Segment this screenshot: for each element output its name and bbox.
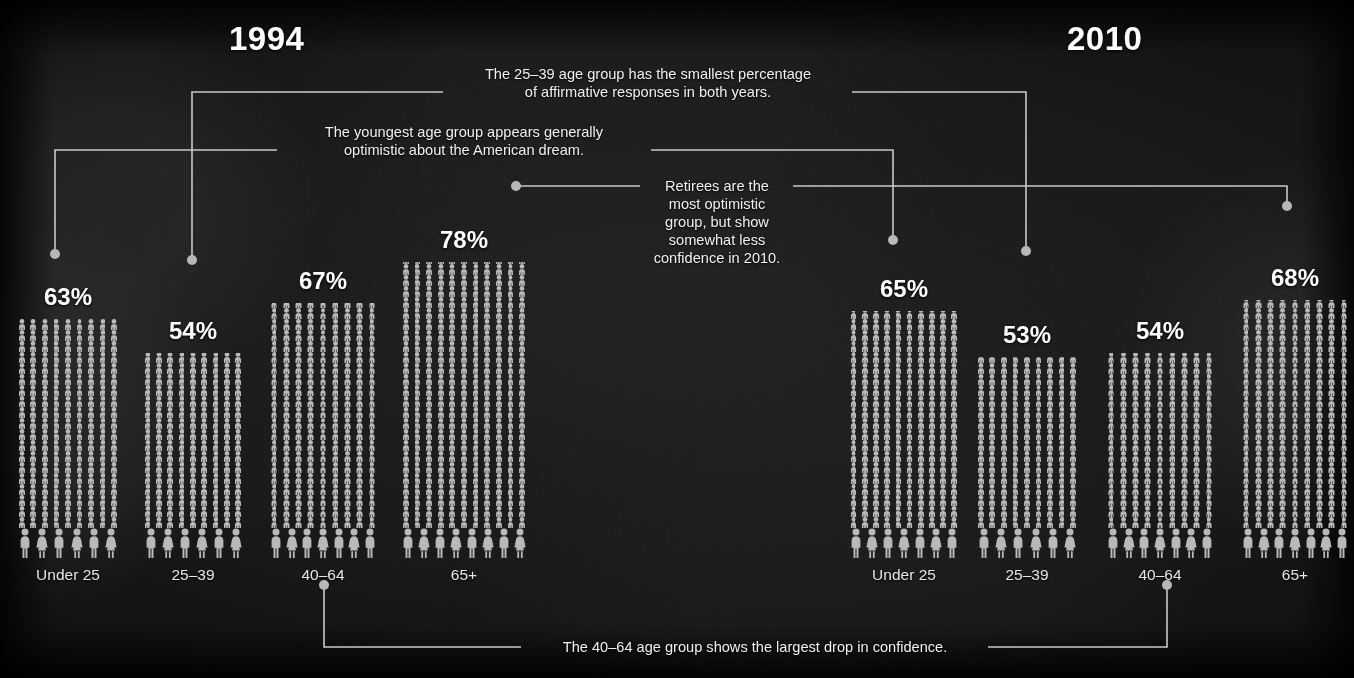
pictogram-base-row	[848, 528, 960, 558]
person-icon	[176, 528, 193, 558]
annotation-retirees: Retirees are the most optimistic group, …	[643, 178, 791, 268]
person-icon	[1334, 528, 1350, 558]
person-icon	[912, 528, 928, 558]
person-female-icon	[159, 528, 176, 558]
person-icon	[432, 528, 448, 558]
pictogram-bar	[1240, 300, 1350, 558]
annotation-25-39-smallest: The 25–39 age group has the smallest per…	[443, 66, 853, 102]
person-icon	[848, 528, 864, 558]
pictogram-fill	[142, 353, 244, 528]
bar-value-label: 53%	[1003, 321, 1051, 349]
bar-category-label: 40–64	[1138, 566, 1181, 584]
pictogram-fill	[975, 357, 1079, 528]
annotation-retirees-line5: confidence in 2010.	[643, 250, 791, 268]
person-icon	[85, 528, 102, 558]
annotation-retirees-line3: group, but show	[643, 214, 791, 232]
person-icon	[400, 528, 416, 558]
bar-value-label: 63%	[44, 283, 92, 311]
pictogram-fill	[1105, 353, 1215, 528]
bar-category-label: Under 25	[872, 566, 936, 584]
person-icon	[880, 528, 896, 558]
person-icon	[1199, 528, 1215, 558]
person-icon	[1136, 528, 1152, 558]
person-female-icon	[1319, 528, 1335, 558]
person-female-icon	[227, 528, 244, 558]
person-female-icon	[103, 528, 120, 558]
bar-category-label: Under 25	[36, 566, 100, 584]
person-icon	[975, 528, 992, 558]
person-icon	[268, 528, 284, 558]
pictogram-bar	[142, 353, 244, 558]
annotation-youngest-line2: optimistic about the American dream.	[277, 142, 651, 160]
annotation-25-39-line1: The 25–39 age group has the smallest per…	[443, 66, 853, 84]
person-female-icon	[1256, 528, 1272, 558]
person-icon	[142, 528, 159, 558]
person-icon	[944, 528, 960, 558]
person-female-icon	[1121, 528, 1137, 558]
bar-category-label: 25–39	[1005, 566, 1048, 584]
infographic-canvas: 1994 2010 63%Under 2554%25–3967%40–6478%…	[0, 0, 1354, 678]
person-icon	[1271, 528, 1287, 558]
person-female-icon	[315, 528, 331, 558]
pictogram-fill	[400, 262, 528, 528]
person-female-icon	[1062, 528, 1079, 558]
person-female-icon	[416, 528, 432, 558]
pictogram-base-row	[268, 528, 378, 558]
pictogram-base-row	[142, 528, 244, 558]
bar-value-label: 78%	[440, 226, 488, 254]
person-female-icon	[1152, 528, 1168, 558]
pictogram-fill	[1240, 300, 1350, 528]
person-icon	[16, 528, 33, 558]
pictogram-bar	[975, 357, 1079, 558]
bar-value-label: 65%	[880, 275, 928, 303]
person-icon	[1010, 528, 1027, 558]
person-female-icon	[448, 528, 464, 558]
pictogram-fill	[848, 311, 960, 528]
person-icon	[464, 528, 480, 558]
person-icon	[1240, 528, 1256, 558]
bar-category-label: 65+	[451, 566, 477, 584]
pictogram-bar	[16, 319, 120, 558]
pictogram-base-row	[400, 528, 528, 558]
person-icon	[1105, 528, 1121, 558]
pictogram-base-row	[1240, 528, 1350, 558]
bar-value-label: 67%	[299, 267, 347, 295]
person-female-icon	[480, 528, 496, 558]
person-female-icon	[193, 528, 210, 558]
person-icon	[51, 528, 68, 558]
person-female-icon	[512, 528, 528, 558]
annotation-youngest-line1: The youngest age group appears generally	[277, 124, 651, 142]
person-female-icon	[68, 528, 85, 558]
person-icon	[1168, 528, 1184, 558]
pictogram-bar	[848, 311, 960, 558]
pictogram-bar	[400, 262, 528, 558]
year-heading-1994: 1994	[229, 20, 304, 58]
bar-category-label: 25–39	[171, 566, 214, 584]
pictogram-fill	[16, 319, 120, 528]
pictogram-base-row	[16, 528, 120, 558]
pictogram-bar	[268, 303, 378, 558]
pictogram-base-row	[1105, 528, 1215, 558]
person-female-icon	[1287, 528, 1303, 558]
person-icon	[210, 528, 227, 558]
person-icon	[1044, 528, 1061, 558]
person-icon	[362, 528, 378, 558]
annotation-25-39-line2: of affirmative responses in both years.	[443, 84, 853, 102]
pictogram-bar	[1105, 353, 1215, 558]
person-female-icon	[347, 528, 363, 558]
person-icon	[331, 528, 347, 558]
person-female-icon	[992, 528, 1009, 558]
person-icon	[299, 528, 315, 558]
bar-value-label: 68%	[1271, 264, 1319, 292]
bar-category-label: 65+	[1282, 566, 1308, 584]
annotation-retirees-line1: Retirees are the	[643, 178, 791, 196]
annotation-retirees-line2: most optimistic	[643, 196, 791, 214]
annotation-40-64-drop: The 40–64 age group shows the largest dr…	[521, 639, 989, 657]
annotation-retirees-line4: somewhat less	[643, 232, 791, 250]
bar-category-label: 40–64	[301, 566, 344, 584]
annotation-youngest-optimistic: The youngest age group appears generally…	[277, 124, 651, 160]
person-female-icon	[864, 528, 880, 558]
person-icon	[1303, 528, 1319, 558]
person-female-icon	[896, 528, 912, 558]
bar-value-label: 54%	[169, 317, 217, 345]
